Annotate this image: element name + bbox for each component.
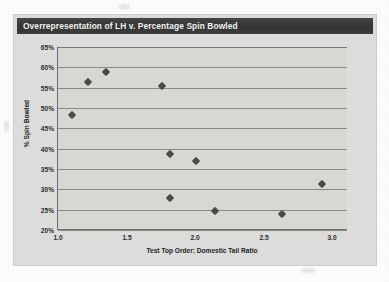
screenshot-root: Overrepresentation of LH v. Percentage S… — [0, 0, 389, 282]
gridline — [58, 210, 347, 211]
y-tick-label: 55% — [20, 85, 54, 92]
scan-smudge — [118, 4, 130, 10]
gridline — [58, 169, 347, 170]
y-tick-label: 20% — [20, 227, 54, 234]
gridline — [58, 88, 347, 89]
plot-inner — [58, 47, 347, 229]
data-point — [192, 157, 200, 165]
gridline — [58, 67, 347, 68]
gridline — [58, 149, 347, 150]
chart-title-bar: Overrepresentation of LH v. Percentage S… — [17, 18, 373, 34]
x-tick-label: 1.5 — [112, 234, 142, 242]
y-tick-label: 25% — [20, 207, 54, 214]
y-tick-label: 50% — [20, 105, 54, 112]
y-tick-label: 35% — [20, 166, 54, 173]
data-point — [102, 68, 110, 76]
x-tick-label: 3.0 — [317, 234, 347, 242]
data-point — [84, 78, 92, 86]
gridline — [58, 47, 347, 48]
y-tick-label: 45% — [20, 125, 54, 132]
gridline — [58, 108, 347, 109]
data-point — [211, 207, 219, 215]
y-tick-label: 65% — [20, 44, 54, 51]
plot-area — [57, 47, 347, 230]
x-axis-title: Test Top Order: Domestic Tail Ratio — [57, 247, 347, 254]
x-axis-tick-labels: 1.01.52.02.53.0 — [57, 234, 347, 244]
gridline — [58, 189, 347, 190]
data-point — [318, 180, 326, 188]
y-tick-label: 30% — [20, 186, 54, 193]
y-tick-label: 40% — [20, 146, 54, 153]
scan-smudge — [4, 120, 9, 132]
chart-figure: Overrepresentation of LH v. Percentage S… — [14, 15, 376, 265]
x-tick-label: 1.0 — [43, 234, 73, 242]
scan-smudge — [300, 268, 316, 273]
gridline — [58, 230, 347, 231]
x-tick-label: 2.5 — [249, 234, 279, 242]
data-point — [158, 82, 166, 90]
chart-title: Overrepresentation of LH v. Percentage S… — [23, 20, 238, 32]
data-point — [67, 111, 75, 119]
data-point — [166, 194, 174, 202]
y-axis-tick-labels: 20%25%30%35%40%45%50%55%60%65% — [16, 47, 54, 230]
gridline — [58, 128, 347, 129]
y-tick-label: 60% — [20, 64, 54, 71]
data-point — [166, 149, 174, 157]
x-tick-label: 2.0 — [180, 234, 210, 242]
